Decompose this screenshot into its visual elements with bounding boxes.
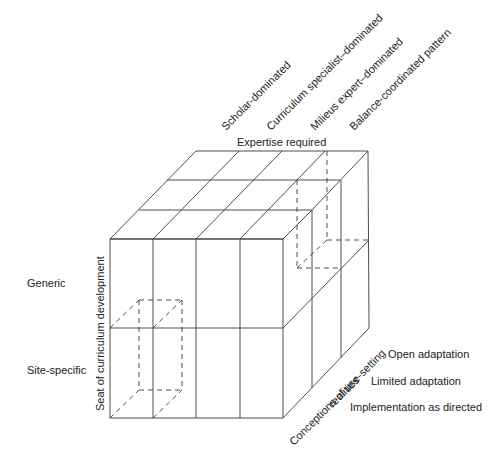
cube-front-face: [110, 239, 283, 418]
curriculum-cube-diagram: Expertise required Scholar-dominated Cur…: [0, 0, 499, 449]
highlight-cell-left: [110, 300, 182, 418]
cube-top-face: [110, 151, 368, 239]
axis-label-seat: Seat of curriculum development: [94, 256, 106, 411]
category-open-adaptation: Open adaptation: [388, 348, 469, 360]
category-generic: Generic: [27, 277, 66, 289]
axis-label-expertise: Expertise required: [237, 136, 326, 148]
category-site-specific: Site-specific: [27, 364, 87, 376]
category-implementation-as-directed: Implementation as directed: [350, 401, 482, 413]
category-limited-adaptation: Limited adaptation: [371, 375, 461, 387]
